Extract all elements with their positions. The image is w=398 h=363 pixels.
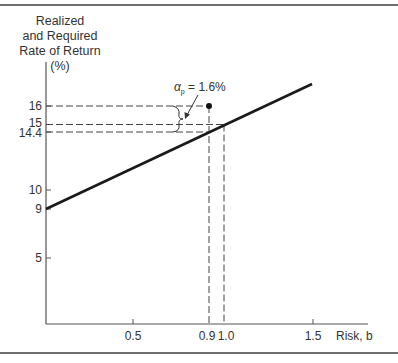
x-ticks <box>133 319 313 324</box>
y-tick-10: 10 <box>29 183 42 197</box>
y-tick-14-4: 14.4 <box>19 126 42 140</box>
y-tick-5: 5 <box>35 251 42 265</box>
x-tick-1-0: 1.0 <box>218 329 235 343</box>
alpha-symbol: α <box>174 80 181 94</box>
x-tick-0-5: 0.5 <box>125 329 142 343</box>
realized-return-point <box>206 103 212 109</box>
y-ticks <box>46 106 51 258</box>
arrowhead-icon <box>185 112 191 119</box>
x-tick-0-9: 0.9 <box>199 329 216 343</box>
chart-plot <box>0 0 398 363</box>
y-tick-9: 9 <box>35 202 42 216</box>
brace-icon <box>173 106 183 132</box>
security-market-line <box>46 84 312 209</box>
y-tick-16: 16 <box>29 99 42 113</box>
annotation-arrow-icon <box>187 95 198 115</box>
alpha-value: = 1.6% <box>188 80 226 94</box>
alpha-annotation: αp = 1.6% <box>174 80 226 95</box>
alpha-subscript: p <box>181 88 185 95</box>
x-tick-1-5: 1.5 <box>305 329 322 343</box>
x-axis-label: Risk, b <box>336 329 373 343</box>
